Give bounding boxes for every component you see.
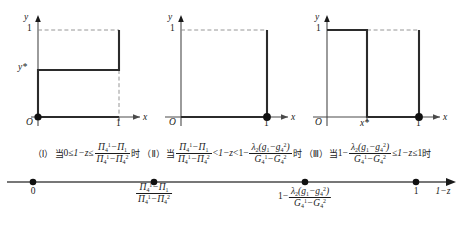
condition-2: （Ⅱ） 当 Π41−Π1 Π41−Π42 < 1−z < 1 − λ2(g1−g…	[142, 142, 301, 164]
number-line-1-denominator: Π41−Π42	[136, 194, 172, 205]
charts-canvas	[0, 0, 464, 136]
condition-1-fraction: Π41−Π1 Π41−Π42	[95, 142, 131, 164]
condition-2-right-denominator: G41−G42	[249, 154, 291, 165]
number-line-2-numerator: λ2(g1−g42)	[289, 186, 331, 198]
condition-1-denominator: Π41−Π42	[95, 154, 131, 165]
chart-1-y-arrow	[35, 15, 41, 22]
number-line-fraction-1: Π41−Π1 Π41−Π42	[136, 182, 172, 204]
condition-2-when: 当	[166, 147, 175, 160]
number-line-label-3: 1	[414, 186, 419, 196]
number-line-canvas	[0, 172, 464, 218]
chart-3-y-axis-label: y	[315, 12, 319, 22]
condition-2-fraction-right: λ2(g1−g42) G41−G42	[249, 142, 291, 164]
chart-2-y-arrow	[178, 15, 184, 22]
number-line-fraction-2: λ2(g1−g42) G41−G42	[289, 186, 331, 208]
chart-2-x-arrow	[281, 114, 288, 120]
number-line-1-numerator: Π41−Π1	[136, 182, 172, 194]
condition-1-then: 时	[131, 147, 140, 160]
condition-2-left-denominator: Π41−Π42	[176, 154, 212, 165]
chart-3-x-tick-xstar: x*	[360, 118, 369, 128]
number-line-dot-0	[30, 179, 37, 186]
condition-2-minus: −	[243, 148, 248, 158]
condition-2-tag: （Ⅱ）	[142, 147, 164, 160]
condition-2-left-numerator: Π41−Π1	[176, 142, 212, 154]
chart-2-origin-label: O	[169, 117, 176, 127]
condition-2-right-numerator: λ2(g1−g42)	[249, 142, 291, 154]
chart-3-x-tick-1: 1	[416, 118, 421, 128]
chart-3-y-arrow	[324, 15, 330, 22]
condition-3-then: 时	[422, 147, 431, 160]
chart-3-y-tick-1: 1	[316, 23, 321, 33]
condition-1-var: 1−z	[73, 148, 88, 158]
chart-2-y-tick-1: 1	[170, 23, 175, 33]
chart-2-x-axis-label: x	[291, 112, 295, 122]
condition-1: （Ⅰ） 当 0 ≤ 1−z ≤ Π41−Π1 Π41−Π42 时	[33, 142, 141, 164]
chart-1-step-curve	[38, 30, 119, 117]
condition-3-denominator: G41−G42	[349, 154, 391, 165]
chart-1-y-tick-ystar: y*	[18, 62, 27, 72]
condition-1-tag: （Ⅰ）	[33, 147, 54, 160]
chart-1-x-arrow	[133, 114, 140, 120]
number-line-arrow	[446, 178, 456, 186]
chart-1	[31, 15, 140, 126]
number-line-dot-2	[302, 179, 309, 186]
chart-3-step-curve	[327, 30, 419, 117]
number-line-label-0: 0	[31, 186, 36, 196]
number-line-dot-3	[413, 179, 420, 186]
condition-1-numerator: Π41−Π1	[95, 142, 131, 154]
condition-3: （Ⅲ） 当 1 − λ2(g1−g42) G41−G42 ≤ 1−z ≤ 1 时	[304, 142, 432, 164]
condition-1-le-2: ≤	[88, 148, 93, 158]
number-line-axis-label: 1−z	[436, 186, 451, 196]
condition-2-var: 1−z	[218, 148, 233, 158]
condition-3-minus: −	[343, 148, 348, 158]
chart-1-origin-label: O	[26, 117, 33, 127]
number-line-2-denominator: G41−G42	[289, 198, 331, 209]
condition-3-tag: （Ⅲ）	[304, 147, 328, 160]
condition-3-numerator: λ2(g1−g42)	[349, 142, 391, 154]
chart-1-x-axis-label: x	[143, 112, 147, 122]
condition-3-var: 1−z	[397, 148, 412, 158]
condition-2-fraction-left: Π41−Π1 Π41−Π42	[176, 142, 212, 164]
number-line-label-1: Π41−Π1 Π41−Π42	[135, 182, 173, 204]
chart-3-x-axis-label: x	[443, 112, 447, 122]
chart-1-y-axis-label: y	[24, 12, 28, 22]
condition-3-fraction: λ2(g1−g42) G41−G42	[349, 142, 391, 164]
chart-3	[313, 15, 440, 126]
chart-1-x-tick-1: 1	[116, 118, 121, 128]
number-line-label-2: 1− λ2(g1−g42) G41−G42	[278, 186, 332, 208]
number-line-2-minus: −	[283, 191, 288, 201]
condition-3-when: 当	[329, 147, 338, 160]
chart-3-x-arrow	[433, 114, 440, 120]
chart-2	[165, 15, 288, 126]
chart-3-origin-label: O	[315, 117, 322, 127]
chart-1-y-tick-1: 1	[27, 23, 32, 33]
conditions-row: （Ⅰ） 当 0 ≤ 1−z ≤ Π41−Π1 Π41−Π42 时 （Ⅱ） 当 Π…	[0, 136, 464, 170]
condition-2-then: 时	[293, 147, 302, 160]
chart-1-origin-dot	[34, 113, 41, 120]
condition-1-when: 当	[55, 147, 64, 160]
chart-2-y-axis-label: y	[168, 12, 172, 22]
chart-2-x-tick-1: 1	[264, 118, 269, 128]
math-figure: y x O 1 y* 1 y x O 1 1 y x O 1 x* 1 （Ⅰ） …	[0, 0, 464, 226]
